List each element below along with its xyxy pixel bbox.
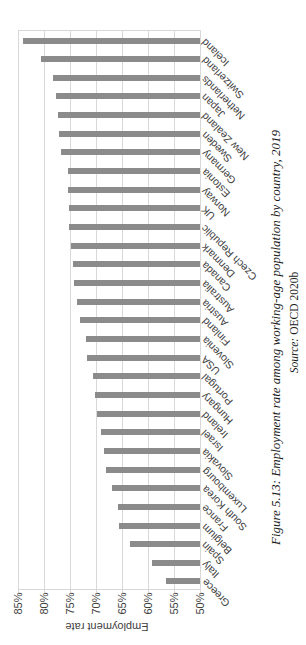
bar-japan	[56, 93, 200, 99]
bar-luxembourg	[106, 467, 200, 473]
tick-label-65: 65%	[116, 593, 129, 623]
bar-switzerland	[41, 56, 200, 62]
bar-iceland	[23, 38, 200, 44]
bar-italy	[152, 560, 200, 566]
bar-slovenia	[86, 336, 200, 342]
bar-austria	[77, 299, 200, 305]
bar-france	[118, 504, 200, 510]
bar-uk	[69, 205, 200, 211]
tick-label-55: 55%	[168, 593, 181, 623]
tick-label-80: 80%	[38, 593, 51, 623]
figure-page: 50%55%60%65%70%75%80%85%IcelandSwitzerla…	[0, 0, 306, 645]
bar-sweden	[59, 131, 200, 137]
bar-belgium	[119, 523, 200, 529]
source-value: OECD 2020b	[288, 272, 300, 335]
bar-ireland	[97, 411, 200, 417]
bar-germany	[61, 149, 200, 155]
value-axis-title: Employment rate	[57, 620, 157, 634]
plot-border-bottom	[18, 589, 201, 590]
bar-new-zealand	[58, 112, 200, 118]
figure-caption: Figure 5.13: Employment rate among worki…	[267, 0, 284, 645]
tick-label-50: 50%	[194, 593, 207, 623]
bar-portugal	[93, 373, 200, 379]
figure-source: Source:OECD 2020b	[287, 0, 302, 645]
bar-australia	[74, 280, 200, 286]
plot-border-top	[18, 30, 201, 31]
tick-label-60: 60%	[142, 593, 155, 623]
bar-denmark	[71, 243, 200, 249]
bar-spain	[130, 541, 200, 547]
source-prefix-label: Source:	[288, 338, 300, 373]
bar-hungary	[95, 392, 200, 398]
gridline-80	[44, 30, 45, 593]
bar-norway	[68, 187, 200, 193]
bar-netherlands	[53, 75, 200, 81]
bar-israel	[101, 429, 200, 435]
bar-canada	[73, 261, 200, 267]
bar-south-korea	[112, 485, 200, 491]
bar-slovakia	[104, 448, 200, 454]
tick-label-85: 85%	[12, 593, 25, 623]
bar-czech-republic	[69, 224, 200, 230]
tick-label-70: 70%	[90, 593, 103, 623]
bar-finland	[80, 317, 200, 323]
tick-label-75: 75%	[64, 593, 77, 623]
bar-usa	[87, 355, 200, 361]
bar-estonia	[68, 168, 200, 174]
bar-greece	[166, 578, 200, 584]
gridline-85	[18, 30, 19, 593]
